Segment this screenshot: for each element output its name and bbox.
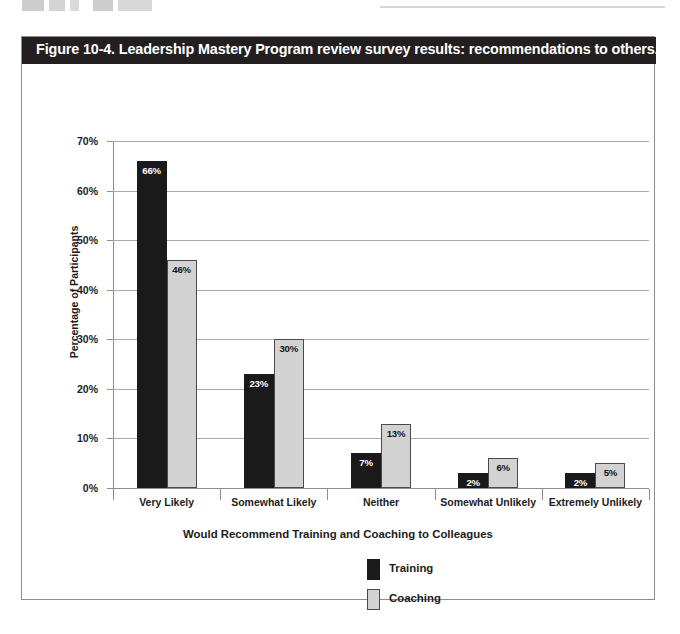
plot-area: 0%10%20%30%40%50%60%70% 66%46%23%30%7%13… [113, 141, 649, 488]
bar-value-label: 2% [566, 477, 594, 488]
bar-coaching-neither: 13% [381, 424, 411, 488]
bar-coaching-extremely-unlikely: 5% [595, 463, 625, 488]
bar-training-extremely-unlikely: 2% [565, 473, 595, 488]
y-tick-label: 30% [77, 333, 98, 345]
bar-value-label: 46% [168, 264, 196, 275]
y-tick-60%: 60% [107, 191, 113, 192]
bar-group: 2%5% [565, 141, 625, 488]
bar-coaching-somewhat-likely: 30% [274, 339, 304, 488]
bar-training-somewhat-likely: 23% [244, 374, 274, 488]
bar-group: 7%13% [351, 141, 411, 488]
bar-value-label: 13% [382, 428, 410, 439]
page-rule-artifact [380, 6, 665, 8]
y-tick-label: 60% [77, 185, 98, 197]
category-label-somewhat-unlikely: Somewhat Unlikely [440, 496, 536, 508]
bar-group: 2%6% [458, 141, 518, 488]
bar-value-label: 66% [138, 165, 166, 176]
bar-value-label: 7% [352, 457, 380, 468]
bar-training-neither: 7% [351, 453, 381, 488]
category-separator-tick [327, 489, 328, 500]
category-separator-tick [435, 489, 436, 500]
category-label-very-likely: Very Likely [139, 496, 194, 508]
bar-training-somewhat-unlikely: 2% [458, 473, 488, 488]
y-tick-label: 0% [83, 482, 98, 494]
y-tick-40%: 40% [107, 290, 113, 291]
category-separator-tick [220, 489, 221, 500]
chart-canvas: Percentage of Participants 0%10%20%30%40… [22, 64, 654, 599]
category-label-extremely-unlikely: Extremely Unlikely [549, 496, 642, 508]
y-tick-30%: 30% [107, 339, 113, 340]
y-tick-70%: 70% [107, 141, 113, 142]
bar-training-very-likely: 66% [137, 161, 167, 488]
bar-coaching-somewhat-unlikely: 6% [488, 458, 518, 488]
y-tick-label: 10% [77, 432, 98, 444]
y-tick-label: 20% [77, 383, 98, 395]
axis-end-tick [649, 489, 650, 500]
y-tick-label: 40% [77, 284, 98, 296]
y-tick-label: 50% [77, 234, 98, 246]
figure-caption: Figure 10-4. Leadership Mastery Program … [36, 41, 658, 57]
x-axis-line [113, 488, 649, 489]
figure-title-bar: Figure 10-4. Leadership Mastery Program … [22, 37, 656, 64]
category-separator-tick [542, 489, 543, 500]
y-tick-label: 70% [77, 135, 98, 147]
bar-value-label: 23% [245, 378, 273, 389]
category-label-somewhat-likely: Somewhat Likely [231, 496, 316, 508]
page-running-head-artifact [22, 0, 152, 11]
legend-swatch-coaching-icon [367, 589, 380, 610]
legend-swatch-training-icon [367, 559, 380, 580]
bar-value-label: 30% [275, 343, 303, 354]
category-label-neither: Neither [363, 496, 399, 508]
bar-coaching-very-likely: 46% [167, 260, 197, 488]
y-tick-50%: 50% [107, 240, 113, 241]
bar-value-label: 5% [596, 467, 624, 478]
bar-group: 23%30% [244, 141, 304, 488]
axis-end-tick [113, 489, 114, 500]
x-axis-title: Would Recommend Training and Coaching to… [183, 528, 493, 540]
figure-frame: Figure 10-4. Leadership Mastery Program … [21, 36, 655, 600]
y-tick-20%: 20% [107, 389, 113, 390]
figure-page: Figure 10-4. Leadership Mastery Program … [0, 0, 680, 634]
bar-value-label: 2% [459, 477, 487, 488]
y-tick-10%: 10% [107, 438, 113, 439]
bar-group: 66%46% [137, 141, 197, 488]
bar-value-label: 6% [489, 462, 517, 473]
y-axis-line [113, 141, 114, 489]
legend-label-training: Training [389, 562, 433, 574]
legend-label-coaching: Coaching [389, 592, 441, 604]
